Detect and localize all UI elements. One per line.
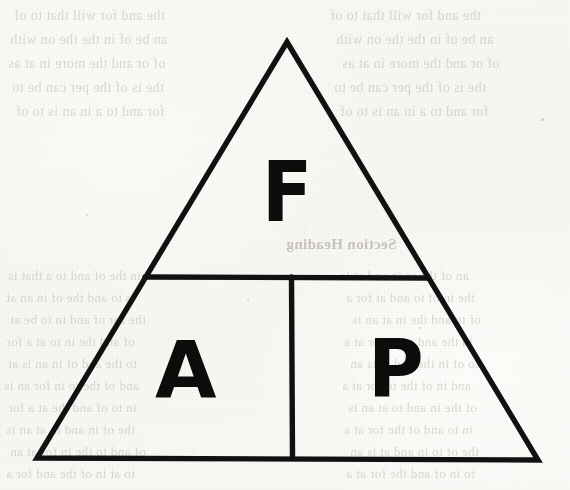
fire-triangle-diagram	[0, 0, 570, 490]
triangle-outline	[37, 42, 538, 460]
vertical-divider-line	[292, 277, 293, 458]
region-label-bottom-right-p: P	[368, 329, 424, 409]
horizontal-divider-line	[145, 277, 428, 278]
region-label-top-f: F	[262, 151, 312, 234]
scanned-page: the and for will that to of an be of in …	[0, 0, 570, 490]
region-label-bottom-left-a: A	[155, 331, 217, 409]
